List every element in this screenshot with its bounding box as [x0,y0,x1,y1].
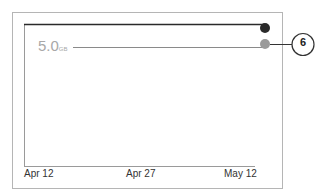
max-line-dot-icon [260,23,270,33]
x-tick-0: Apr 12 [24,168,53,179]
x-tick-1: Apr 27 [126,168,155,179]
threshold-value: 5.0 [38,37,59,54]
chart-canvas [0,0,333,193]
threshold-dot-icon [260,39,270,49]
threshold-unit: GB [59,46,68,52]
x-tick-2: May 12 [224,168,257,179]
threshold-label: 5.0GB [38,37,68,54]
callout-number: 6 [292,36,314,48]
